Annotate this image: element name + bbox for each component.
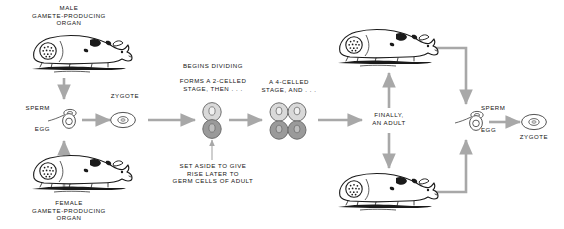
zygote-label-right: ZYGOTE <box>508 133 560 141</box>
female-guinea-pig-icon <box>32 156 132 192</box>
diagram-canvas: MALE GAMETE-PRODUCING ORGAN FEMALE GAMET… <box>0 0 564 229</box>
female-organ-label: FEMALE GAMETE-PRODUCING ORGAN <box>14 199 124 222</box>
zygote-cell-icon-left <box>111 112 136 127</box>
four-celled-stage-label: A 4-CELLED STAGE, AND . . . <box>252 78 326 93</box>
germ-cell-note-label: SET ASIDE TO GIVE RISE LATER TO GERM CEL… <box>156 162 270 185</box>
two-celled-stage-label: BEGINS DIVIDING FORMS A 2-CELLED STAGE, … <box>165 62 261 92</box>
adult-label: FINALLY, AN ADULT <box>358 111 420 126</box>
adult-female-guinea-pig-icon <box>338 174 438 210</box>
diagram-artwork <box>0 0 564 229</box>
sperm-label-left: SPERM <box>12 104 50 112</box>
adult-male-guinea-pig-icon <box>338 30 438 66</box>
two-celled-embryo-icon <box>203 103 221 139</box>
four-celled-embryo-icon <box>270 103 306 139</box>
egg-label-left: EGG <box>16 125 50 133</box>
zygote-label-left: ZYGOTE <box>99 92 151 100</box>
egg-label-right: EGG <box>481 126 507 134</box>
male-organ-label: MALE GAMETE-PRODUCING ORGAN <box>14 4 124 27</box>
sperm-and-egg-icon-left <box>48 109 76 128</box>
zygote-cell-icon-right <box>522 114 547 129</box>
male-guinea-pig-icon <box>32 36 132 72</box>
sperm-and-egg-icon-right <box>455 111 483 130</box>
sperm-label-right: SPERM <box>481 104 515 112</box>
